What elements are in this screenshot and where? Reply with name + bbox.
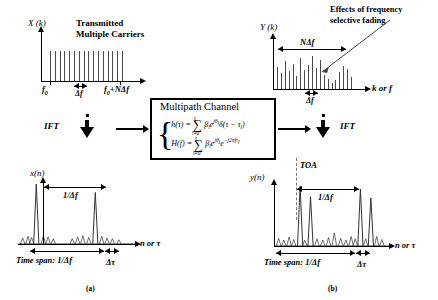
rx-spectrum-spacing-dim [305,93,318,94]
caption-b: (b) [328,284,337,293]
tx-time-delta-tau-dim [105,251,119,252]
tx-spectrum-tick-start-label: f0 [42,84,48,96]
tx-time-period-label: 1/Δf [63,190,78,200]
rx-spectrum-y-label: Y (k) [260,22,277,32]
tx-time-span-dim [30,251,104,252]
ift-left-label: IFT [44,121,59,131]
tx-spectrum-carriers [50,51,122,81]
ift-right-label: IFT [340,121,355,131]
fading-annotation-leader-line [322,18,390,73]
tx-title-line1: Transmitted [76,18,123,28]
rx-time-delta-tau-dim [356,253,370,254]
rx-spectrum-y-axis [273,39,274,90]
rx-time-period-dim [297,189,359,190]
tx-time-period-dim [44,187,106,188]
tx-spectrum-y-arrow-icon [38,26,44,32]
rx-spectrum-spacing-label: Δf [306,96,314,105]
tx-spectrum-spacing-label: Δf [75,89,83,98]
tx-spectrum-tick-end-label: f0+NΔf [104,84,129,96]
tx-time-delta-tau-label: Δτ [106,257,115,267]
fading-annotation-line1: Effects of frequency [330,4,403,14]
panel-received-time: y(n) n or τ TOA 1/Δf Time span: 1/Δf Δτ [248,158,428,270]
panel-transmitted-time: x(n) n or τ 1/Δf Time span: 1/Δf Δτ [14,168,164,268]
equation-transfer-function: H(f) = L∑l=0 βlejθle−j2πfτl [171,135,244,152]
tx-spectrum-x-axis [41,81,141,82]
rx-spectrum-span-label: NΔf [300,37,314,47]
rx-time-x-label: n or τ [395,240,415,250]
caption-a: (a) [86,284,95,293]
tx-title-line2: Multiple Carriers [76,29,144,39]
tx-time-span-label: Time span: 1/Δf [16,255,72,265]
rx-time-delta-tau-label: Δτ [357,259,366,269]
rx-time-span-label: Time span: 1/Δf [264,257,320,267]
rx-time-toa-label: TOA [300,160,317,170]
tx-spectrum-x-arrow-icon [140,78,146,84]
channel-title: Multipath Channel [160,101,239,112]
rx-spectrum-x-arrow-icon [365,86,371,92]
equation-impulse-response: h(τ) = L∑l=0 βlejθlδ(τ − τl) [171,116,244,133]
tx-spectrum-y-axis [41,32,42,82]
tx-spectrum-tick-start [50,81,51,85]
tx-time-x-label: n or τ [140,238,160,248]
rx-time-span-dim [276,253,355,254]
rx-time-period-label: 1/Δf [318,192,333,202]
arrow-out-of-channel [278,128,306,130]
multipath-channel-box: Multipath Channel { h(τ) = L∑l=0 βlejθlδ… [150,98,276,160]
arrow-into-channel [116,128,144,130]
rx-spectrum-x-label: k or f [372,83,392,93]
rx-time-y-label: y(n) [250,172,265,182]
rx-spectrum-y-arrow-icon [270,33,276,39]
channel-equations: { h(τ) = L∑l=0 βlejθlδ(τ − τl) H(f) = L∑… [157,116,245,153]
rx-spectrum-x-axis [273,89,366,90]
tx-spectrum-spacing-dim [74,86,87,87]
